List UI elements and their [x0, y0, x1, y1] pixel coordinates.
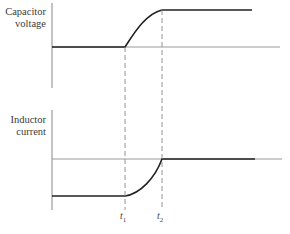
inductor-current-curve [52, 159, 255, 196]
timing-diagram [0, 0, 290, 234]
t2-label: t2 [157, 210, 163, 224]
t1-label: t1 [120, 210, 126, 224]
capacitor-voltage-curve [52, 10, 252, 47]
